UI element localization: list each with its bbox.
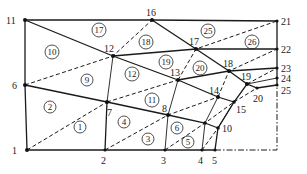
node-label: 25 [281, 85, 291, 96]
node-5 [213, 148, 216, 151]
svg-text:1: 1 [78, 122, 83, 132]
node-label: 10 [222, 123, 232, 134]
node-18 [227, 69, 231, 73]
svg-text:3: 3 [146, 134, 151, 144]
node-label: 20 [253, 93, 263, 104]
mesh-solid-edges [25, 20, 277, 150]
node-label: 21 [281, 16, 291, 27]
node-17 [194, 47, 198, 51]
node-24 [275, 76, 278, 79]
svg-text:18: 18 [142, 37, 152, 47]
svg-text:2: 2 [48, 102, 53, 112]
node-16 [150, 18, 154, 22]
element-9: 9 [81, 74, 93, 86]
svg-text:10: 10 [48, 47, 58, 57]
element-3: 3 [142, 133, 154, 145]
node-label: 8 [162, 103, 167, 114]
mesh-dashed-diagonals [25, 20, 277, 150]
svg-text:11: 11 [148, 95, 157, 105]
svg-text:6: 6 [175, 123, 180, 133]
node-label: 3 [161, 155, 166, 166]
element-12: 12 [125, 67, 139, 81]
svg-text:20: 20 [196, 63, 206, 73]
node-label: 11 [6, 15, 16, 26]
node-label: 13 [170, 67, 180, 78]
node-label: 5 [212, 155, 217, 166]
node-3 [163, 148, 166, 151]
element-19: 19 [159, 55, 173, 69]
node-label: 19 [241, 71, 251, 82]
mesh-nodes [23, 18, 279, 152]
node-label: 6 [12, 80, 17, 91]
node-label: 7 [107, 107, 112, 118]
node-7 [105, 100, 109, 104]
fem-mesh-diagram: 1 2 3 4 5 6 7 8 10 11 12 13 14 15 16 17 … [0, 0, 307, 174]
node-4 [200, 148, 203, 151]
node-label: 14 [209, 85, 219, 96]
node-13 [176, 78, 180, 82]
node-label: 2 [101, 155, 106, 166]
node-11 [23, 18, 27, 22]
node-1 [25, 148, 29, 152]
element-2: 2 [44, 101, 56, 113]
element-26: 26 [245, 35, 259, 49]
svg-text:5: 5 [186, 137, 191, 147]
element-25: 25 [201, 24, 215, 38]
svg-text:4: 4 [122, 117, 127, 127]
element-10: 10 [45, 45, 59, 59]
svg-text:25: 25 [204, 26, 214, 36]
element-5: 5 [182, 136, 194, 148]
node-20 [255, 86, 258, 89]
svg-text:19: 19 [162, 57, 172, 67]
node-9 [203, 121, 207, 125]
node-label: 4 [198, 155, 203, 166]
node-21 [275, 19, 278, 22]
node-22 [275, 47, 278, 50]
node-23 [275, 66, 278, 69]
element-1: 1 [74, 121, 86, 133]
node-label: 22 [281, 44, 291, 55]
svg-text:12: 12 [128, 69, 137, 79]
element-18: 18 [139, 35, 153, 49]
node-10 [216, 126, 220, 130]
node-6 [23, 83, 27, 87]
node-2 [103, 148, 106, 151]
svg-text:9: 9 [85, 75, 90, 85]
node-label: 12 [104, 43, 114, 54]
node-label: 15 [236, 104, 246, 115]
node-label: 17 [189, 36, 199, 47]
node-label: 1 [12, 145, 17, 156]
node-label: 16 [146, 7, 156, 18]
node-12 [111, 54, 115, 58]
element-20: 20 [193, 61, 207, 75]
element-17: 17 [92, 23, 106, 37]
node-label: 24 [281, 73, 291, 84]
node-19 [245, 82, 249, 86]
mesh-boundary [25, 20, 277, 150]
svg-text:17: 17 [95, 25, 105, 35]
element-11: 11 [145, 93, 159, 107]
svg-text:26: 26 [248, 37, 258, 47]
node-25 [275, 83, 278, 86]
element-4: 4 [118, 116, 130, 128]
node-label: 18 [223, 58, 233, 69]
element-6: 6 [171, 122, 183, 134]
